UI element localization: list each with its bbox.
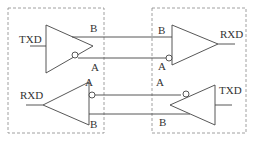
label-b-bottom-left: B xyxy=(90,118,97,130)
driver-triangle-left xyxy=(46,25,93,73)
inverting-bubble-receiver-left xyxy=(89,92,95,98)
label-b-bottom-right: B xyxy=(159,116,166,128)
receiver-triangle-right xyxy=(172,25,218,65)
label-txd-left: TXD xyxy=(19,33,42,45)
label-txd-right: TXD xyxy=(219,84,242,96)
label-rxd-left: RXD xyxy=(20,89,43,101)
label-a-bottom-right: A xyxy=(156,76,164,88)
label-b-top-right: B xyxy=(158,24,165,36)
inverting-bubble-receiver-right xyxy=(166,55,172,61)
label-b-top-left: B xyxy=(90,22,97,34)
label-a-top-left: A xyxy=(91,61,99,73)
label-rxd-right: RXD xyxy=(220,28,243,40)
receiver-triangle-left xyxy=(43,82,89,125)
driver-triangle-right xyxy=(170,85,215,125)
inverting-bubble-driver-left xyxy=(72,52,78,58)
label-a-top-right: A xyxy=(158,60,166,72)
inverting-bubble-driver-right xyxy=(183,91,189,97)
label-a-bottom-left: A xyxy=(85,76,93,88)
rs485-diagram: TXD B A B A RXD RXD A B A TXD B xyxy=(0,0,254,145)
